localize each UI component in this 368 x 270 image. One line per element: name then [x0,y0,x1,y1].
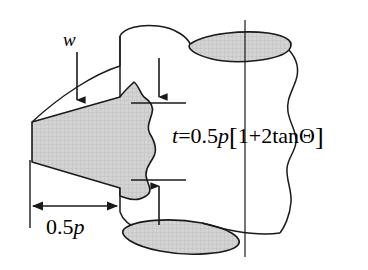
half-pitch-symbol: p [74,214,85,239]
equation-angle-symbol: Θ [299,123,315,148]
equation-bracket-open: [ [229,122,238,151]
equation-expression: 1+2 [238,123,272,148]
engineering-diagram: w 0.5p t=0.5p[1+2tanΘ] [0,0,368,270]
tapered-wedge [32,82,156,199]
thickness-equation-label: t=0.5p[1+2tanΘ] [172,124,324,150]
equation-equals: = [178,123,190,148]
cylinder-top-section-ellipse [189,32,291,62]
cylinder-bottom-section-ellipse [123,220,240,254]
equation-function: tan [272,123,299,148]
width-label: w [63,30,76,49]
equation-pitch-symbol: p [218,123,229,148]
equation-coefficient: 0.5 [191,123,219,148]
equation-bracket-close: ] [315,122,324,151]
half-pitch-dimension-label: 0.5p [46,216,85,238]
half-pitch-value: 0.5 [46,214,74,239]
